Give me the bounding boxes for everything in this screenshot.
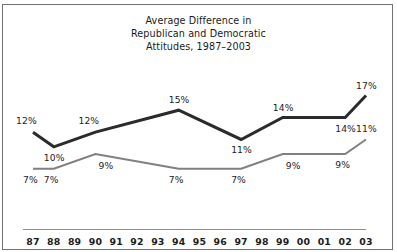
tick-label-87: 87 (22, 236, 44, 247)
tick-label-95: 95 (189, 236, 211, 247)
data-label: 12% (78, 115, 99, 126)
data-label: 9% (286, 160, 301, 171)
data-label: 7% (23, 174, 38, 185)
tick-label-98: 98 (251, 236, 273, 247)
data-label: 14% (335, 123, 356, 134)
tick-label-89: 89 (64, 236, 86, 247)
chart-figure: Average Difference in Republican and Dem… (0, 0, 397, 252)
tick-label-94: 94 (168, 236, 190, 247)
tick-label-97: 97 (230, 236, 252, 247)
tick-label-99: 99 (272, 236, 294, 247)
data-label: 9% (98, 160, 113, 171)
tick-label-03: 03 (355, 236, 377, 247)
tick-label-88: 88 (43, 236, 65, 247)
tick-label-93: 93 (147, 236, 169, 247)
tick-label-90: 90 (84, 236, 106, 247)
data-label: 17% (356, 80, 377, 91)
data-label: 7% (169, 174, 184, 185)
data-label: 11% (231, 144, 252, 155)
tick-label-00: 00 (293, 236, 315, 247)
data-label: 15% (169, 94, 190, 105)
data-label: 10% (44, 152, 65, 163)
tick-label-01: 01 (313, 236, 335, 247)
data-label: 7% (231, 174, 246, 185)
data-label: 14% (273, 102, 294, 113)
series-layer (33, 96, 366, 169)
tick-label-92: 92 (126, 236, 148, 247)
tick-label-91: 91 (105, 236, 127, 247)
tick-label-02: 02 (334, 236, 356, 247)
data-label: 12% (16, 115, 37, 126)
data-label: 7% (44, 174, 59, 185)
tick-label-96: 96 (209, 236, 231, 247)
data-label: 9% (335, 159, 350, 170)
data-label: 11% (356, 123, 377, 134)
series-line-lower-line (33, 139, 366, 168)
